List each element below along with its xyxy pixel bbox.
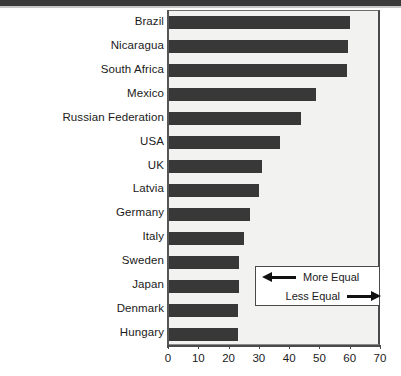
x-tick [229, 345, 230, 349]
bar [168, 256, 239, 269]
x-tick [259, 345, 260, 349]
bar [168, 184, 259, 197]
right-arrow-icon [347, 291, 381, 301]
category-label: Latvia [0, 182, 164, 194]
category-label: USA [0, 135, 164, 147]
x-tick-label: 0 [153, 352, 183, 364]
x-tick-label: 10 [183, 352, 213, 364]
bar [168, 112, 301, 125]
x-tick [289, 345, 290, 349]
x-tick [198, 345, 199, 349]
category-axis-labels: BrazilNicaraguaSouth AfricaMexicoRussian… [0, 10, 164, 345]
bar [168, 64, 347, 77]
x-tick [350, 345, 351, 349]
category-label: Hungary [0, 326, 164, 338]
left-arrow-icon [262, 272, 296, 282]
y-axis-line [167, 10, 169, 348]
legend-label-more-equal: More Equal [303, 271, 359, 283]
category-label: Russian Federation [0, 111, 164, 123]
bar [168, 232, 244, 245]
legend-entry-less-equal: Less Equal [256, 286, 387, 306]
chart-figure: BrazilNicaraguaSouth AfricaMexicoRussian… [0, 0, 401, 376]
bar [168, 304, 238, 317]
x-tick-label: 70 [365, 352, 395, 364]
legend-entry-more-equal: More Equal [256, 267, 387, 287]
x-tick-label: 20 [214, 352, 244, 364]
category-label: Mexico [0, 87, 164, 99]
category-label: Sweden [0, 254, 164, 266]
category-label: Italy [0, 230, 164, 242]
x-tick [319, 345, 320, 349]
x-tick-label: 50 [304, 352, 334, 364]
category-label: Germany [0, 206, 164, 218]
category-label: South Africa [0, 63, 164, 75]
bar [168, 160, 262, 173]
x-tick-label: 60 [335, 352, 365, 364]
x-tick-label: 40 [274, 352, 304, 364]
chart-legend: More Equal Less Equal [255, 266, 380, 306]
bar [168, 208, 250, 221]
category-label: Denmark [0, 302, 164, 314]
legend-label-less-equal: Less Equal [286, 290, 340, 302]
x-tick [380, 345, 381, 349]
bar [168, 328, 238, 341]
bar [168, 136, 280, 149]
category-label: Nicaragua [0, 39, 164, 51]
bar [168, 16, 350, 29]
category-label: Brazil [0, 15, 164, 27]
x-tick-label: 30 [244, 352, 274, 364]
bar [168, 40, 348, 53]
bar [168, 280, 239, 293]
bar [168, 88, 316, 101]
category-label: UK [0, 159, 164, 171]
x-tick [168, 345, 169, 349]
category-label: Japan [0, 278, 164, 290]
scan-artifact-fade [0, 6, 401, 8]
